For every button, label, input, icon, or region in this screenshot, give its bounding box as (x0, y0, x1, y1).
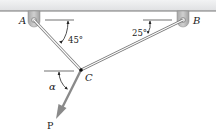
support-b (177, 11, 189, 27)
ceiling (0, 0, 216, 11)
label-force-p: P (47, 120, 54, 131)
label-a: A (18, 15, 26, 26)
truss-diagram: A B C 45° 25° α P (0, 0, 216, 137)
angle-arc-c-icon (58, 72, 68, 90)
label-angle-b: 25° (132, 28, 147, 38)
label-angle-c: α (49, 81, 56, 92)
member-ac (34, 20, 81, 70)
label-b: B (192, 15, 200, 26)
label-c: C (85, 72, 93, 83)
angle-arc-b-icon (147, 21, 152, 35)
joint-c (79, 68, 83, 72)
label-angle-a: 45° (68, 35, 83, 45)
